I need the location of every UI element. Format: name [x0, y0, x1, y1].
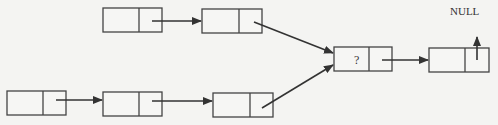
arrow-top2-merge — [254, 22, 333, 53]
merge-node-label: ? — [354, 53, 359, 67]
node-bottom-1 — [7, 91, 66, 115]
node-merge: ? — [334, 47, 392, 71]
null-label: NULL — [450, 5, 480, 17]
arrow-bot3-merge — [262, 65, 333, 108]
node-bottom-2 — [103, 92, 162, 116]
node-top-1 — [103, 8, 162, 32]
node-tail — [429, 48, 489, 72]
node-top-2 — [202, 9, 262, 33]
node-bottom-3 — [213, 93, 273, 117]
linked-list-diagram: ? NULL — [0, 0, 498, 125]
